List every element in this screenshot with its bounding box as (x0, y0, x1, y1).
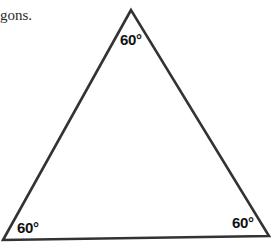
angle-label-bottom-right: 60° (232, 215, 254, 230)
angle-label-bottom-left: 60° (17, 220, 39, 235)
angle-label-top: 60° (120, 32, 142, 47)
